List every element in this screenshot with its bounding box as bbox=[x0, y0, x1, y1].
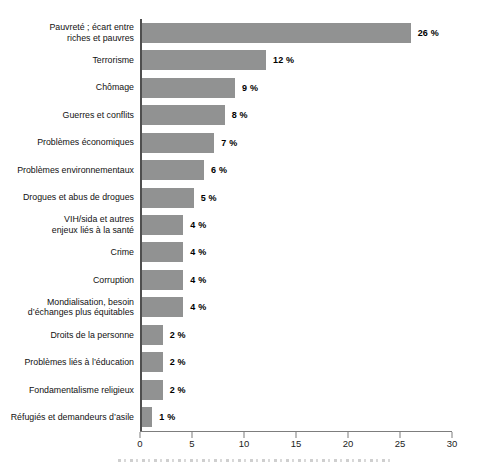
bar bbox=[142, 325, 163, 345]
bar-row: Drogues et abus de drogues 5 % bbox=[0, 184, 452, 211]
bar-row: VIH/sida et autres enjeux liés à la sant… bbox=[0, 211, 452, 238]
bar-row: Guerres et conflits 8 % bbox=[0, 101, 452, 128]
bar-row: Problèmes liés à l’éducation 2 % bbox=[0, 349, 452, 376]
value-label: 6 % bbox=[211, 165, 227, 175]
value-label: 5 % bbox=[201, 193, 217, 203]
category-label: Guerres et conflits bbox=[0, 110, 142, 121]
bar-rows: Pauvreté ; écart entre riches et pauvres… bbox=[0, 19, 452, 431]
bar bbox=[142, 23, 411, 43]
category-label: Crime bbox=[0, 247, 142, 258]
category-label: Problèmes économiques bbox=[0, 137, 142, 148]
category-label: Réfugiés et demandeurs d’asile bbox=[0, 412, 142, 423]
bar bbox=[142, 133, 214, 153]
category-label: Droits de la personne bbox=[0, 330, 142, 341]
x-axis-line bbox=[140, 431, 452, 432]
bar-row: Corruption 4 % bbox=[0, 266, 452, 293]
x-tick-label: 5 bbox=[189, 438, 194, 449]
x-tick-label: 15 bbox=[291, 438, 302, 449]
category-label: Chômage bbox=[0, 82, 142, 93]
bar bbox=[142, 78, 235, 98]
category-label: Problèmes liés à l’éducation bbox=[0, 357, 142, 368]
y-axis-line bbox=[140, 19, 142, 431]
category-label: Corruption bbox=[0, 275, 142, 286]
value-label: 26 % bbox=[418, 28, 439, 38]
x-tick-label: 25 bbox=[395, 438, 406, 449]
value-label: 4 % bbox=[190, 275, 206, 285]
category-label: Terrorisme bbox=[0, 55, 142, 66]
category-label: Problèmes environnementaux bbox=[0, 165, 142, 176]
bar-row: Terrorisme 12 % bbox=[0, 46, 452, 73]
bar bbox=[142, 188, 194, 208]
bar bbox=[142, 215, 183, 235]
bar-chart-figure: Pauvreté ; écart entre riches et pauvres… bbox=[0, 0, 477, 469]
bar bbox=[142, 105, 225, 125]
bar-row: Droits de la personne 2 % bbox=[0, 321, 452, 348]
bar-row: Réfugiés et demandeurs d’asile 1 % bbox=[0, 404, 452, 431]
value-label: 4 % bbox=[190, 220, 206, 230]
bar bbox=[142, 380, 163, 400]
bar-row: Problèmes environnementaux 6 % bbox=[0, 156, 452, 183]
bar-row: Problèmes économiques 7 % bbox=[0, 129, 452, 156]
category-label: VIH/sida et autres enjeux liés à la sant… bbox=[0, 214, 142, 235]
value-label: 9 % bbox=[242, 83, 258, 93]
category-label: Drogues et abus de drogues bbox=[0, 192, 142, 203]
x-tick-label: 30 bbox=[447, 438, 458, 449]
bar bbox=[142, 270, 183, 290]
bar-row: Crime 4 % bbox=[0, 239, 452, 266]
x-tick-label: 10 bbox=[239, 438, 250, 449]
bar bbox=[142, 407, 152, 427]
category-label: Pauvreté ; écart entre riches et pauvres bbox=[0, 22, 142, 43]
x-tick-label: 0 bbox=[137, 438, 142, 449]
bar bbox=[142, 352, 163, 372]
value-label: 2 % bbox=[170, 330, 186, 340]
bar bbox=[142, 297, 183, 317]
x-tick-label: 20 bbox=[343, 438, 354, 449]
category-label: Fondamentalisme religieux bbox=[0, 385, 142, 396]
value-label: 4 % bbox=[190, 247, 206, 257]
value-label: 2 % bbox=[170, 385, 186, 395]
bar-row: Chômage 9 % bbox=[0, 74, 452, 101]
bar-row: Pauvreté ; écart entre riches et pauvres… bbox=[0, 19, 452, 46]
category-label: Mondialisation, besoin d’échanges plus é… bbox=[0, 297, 142, 318]
cropped-caption-text-artifact bbox=[118, 459, 390, 462]
bar bbox=[142, 160, 204, 180]
bar-row: Mondialisation, besoin d’échanges plus é… bbox=[0, 294, 452, 321]
value-label: 8 % bbox=[232, 110, 248, 120]
value-label: 12 % bbox=[273, 55, 294, 65]
value-label: 4 % bbox=[190, 302, 206, 312]
x-axis-tick-labels: 0 5 10 15 20 25 30 bbox=[140, 438, 452, 450]
value-label: 1 % bbox=[159, 412, 175, 422]
value-label: 2 % bbox=[170, 357, 186, 367]
value-label: 7 % bbox=[221, 138, 237, 148]
bar-row: Fondamentalisme religieux 2 % bbox=[0, 376, 452, 403]
bar bbox=[142, 50, 266, 70]
bar bbox=[142, 242, 183, 262]
